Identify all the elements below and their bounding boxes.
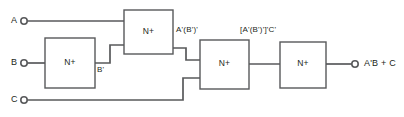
nor-gate-2-label: N+ [124,27,173,36]
nor-gate-4-label: N+ [280,59,326,68]
terminal-input-c [21,97,27,103]
input-label-a: A [11,16,17,25]
logic-circuit-diagram: A B C N+ N+ N+ N+ B' A'(B')' [A'(B')']'C… [0,0,404,117]
terminal-input-b [21,60,27,66]
nor-gate-1-label: N+ [45,58,95,67]
wire-nor2-to-nor3 [173,48,200,60]
signal-label-a-nor-bnot: A'(B')' [176,26,198,34]
input-label-c: C [11,95,18,104]
output-label: A'B + C [364,59,396,68]
wire-bnot-to-nor2 [95,45,124,63]
input-label-b: B [11,58,17,67]
terminal-input-a [21,18,27,24]
signal-label-nor-c: [A'(B')']'C' [240,26,276,34]
terminal-output [352,61,358,67]
nor-gate-3-label: N+ [200,59,249,68]
signal-label-b-not: B' [97,66,104,74]
